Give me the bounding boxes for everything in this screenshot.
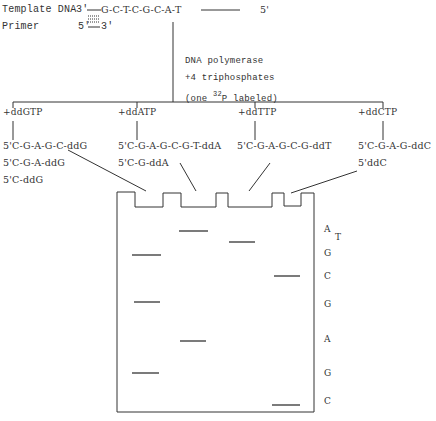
load-line-t	[249, 163, 270, 191]
primer-label: Primer	[2, 22, 39, 32]
product-g-2: 5'C-G-A-ddG	[3, 158, 65, 168]
template-5prime: 5'	[260, 5, 269, 15]
primer-3prime: 3'	[101, 22, 113, 32]
read-base-2: T	[335, 232, 341, 242]
product-t-1: 5'C-G-A-G-C-G-ddT	[237, 141, 332, 151]
tube-label-ddctp: +ddCTP	[358, 108, 397, 117]
reaction-triphosphates: +4 triphosphates	[185, 74, 275, 83]
template-sequence: G-C-T-C-G-C-A-T	[101, 5, 181, 15]
read-base-7: G	[324, 368, 331, 378]
template-dna-label: Template DNA	[2, 5, 76, 15]
product-c-2: 5'ddC	[358, 158, 387, 168]
read-base-8: C	[324, 396, 331, 406]
product-c-1: 5'C-G-A-G-ddC	[358, 141, 431, 151]
load-line-a	[180, 163, 196, 191]
load-line-c	[291, 171, 357, 193]
product-a-1: 5'C-G-A-G-C-G-T-ddA	[118, 141, 221, 151]
reaction-label-note: (one 32P labeled)	[185, 91, 278, 104]
read-base-1: A	[324, 224, 331, 234]
product-g-1: 5'C-G-A-G-C-ddG	[3, 141, 87, 151]
gel-bands	[132, 231, 300, 405]
reaction-polymerase: DNA polymerase	[185, 57, 263, 66]
tube-label-ddgtp: +ddGTP	[3, 108, 43, 117]
read-base-3: G	[324, 248, 331, 258]
read-base-5: G	[324, 299, 331, 309]
product-g-3: 5'C-ddG	[3, 175, 43, 185]
tube-label-ddatp: +ddATP	[118, 108, 156, 117]
read-base-4: C	[324, 271, 331, 281]
tube-label-ddttp: +ddTTP	[238, 108, 277, 117]
primer-5prime: 5'	[78, 22, 90, 32]
read-base-6: A	[324, 334, 331, 344]
template-3prime: 3'	[76, 5, 88, 15]
product-a-2: 5'C-G-ddA	[118, 158, 169, 168]
